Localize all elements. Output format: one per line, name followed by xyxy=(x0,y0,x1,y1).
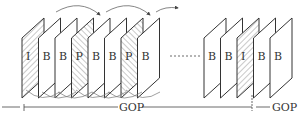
frame-label: P xyxy=(76,50,84,63)
forward-prediction-arrows xyxy=(56,6,178,15)
gop-diagram: IBBPBBPB BBIBB GOP GOP xyxy=(0,0,305,120)
gop-label-2: GOP xyxy=(272,101,298,114)
frame-label: B xyxy=(59,50,67,63)
frame-label: B xyxy=(142,50,150,63)
frame-label: I xyxy=(241,50,245,63)
frame-label: B xyxy=(43,50,51,63)
frame-label: P xyxy=(125,50,133,63)
right-frame-group: BBIBB xyxy=(204,18,292,98)
arrow-i-to-p xyxy=(56,6,100,15)
frame-label: B xyxy=(225,50,233,63)
frame-label: B xyxy=(274,50,282,63)
frame-label: B xyxy=(258,50,266,63)
left-frame-group: IBBPBBPB xyxy=(22,18,160,98)
frame-label: B xyxy=(208,50,216,63)
frame-label: B xyxy=(92,50,100,63)
gop-label-1: GOP xyxy=(119,101,145,114)
frame-label: I xyxy=(26,50,30,63)
frame-label: B xyxy=(109,50,117,63)
arrow-p-to-next xyxy=(156,8,178,13)
arrow-p-to-p xyxy=(106,6,150,15)
